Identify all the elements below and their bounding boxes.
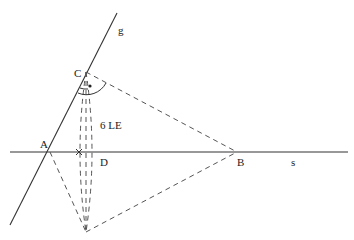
label-measure: 6 LE — [100, 119, 122, 131]
label-s: s — [291, 156, 295, 168]
right-angle-dot-icon — [88, 84, 91, 87]
label-b: B — [237, 156, 244, 168]
dashed-segment-c-b — [86, 72, 237, 152]
angle-arc-c-inner — [80, 88, 88, 89]
label-a: A — [40, 138, 48, 150]
dashed-segment-creflected-b — [86, 152, 237, 232]
label-d: D — [100, 156, 108, 168]
geometry-diagram: g C 6 LE A D B s — [0, 0, 354, 240]
label-c: C — [74, 67, 81, 79]
label-g: g — [118, 24, 124, 36]
